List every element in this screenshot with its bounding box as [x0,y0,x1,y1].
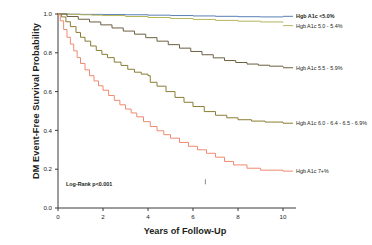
logrank-text: Log-Rank p<0.001 [66,181,112,187]
series-labels: Hgb A1c <5.0%Hgb A1c 5.0 - 5.4%Hgb A1c 5… [283,13,367,174]
series-label: Hgb A1c 5.0 - 5.4% [296,23,343,29]
curve-hgb-a1c-6-0-6-4-6-5-6-9 [58,14,283,123]
plot-canvas: 0.00.20.40.60.81.00246810 Hgb A1c <5.0%H… [0,0,372,245]
curve-hgb-a1c-5-5-5-9 [58,14,283,67]
curve-hgb-a1c-7 [58,14,283,171]
y-tick-label: 1.0 [43,10,52,17]
series-label: Hgb A1c 5.5 - 5.9% [296,65,343,71]
x-tick-label: 6 [191,213,195,220]
y-tick-label: 0.8 [43,49,52,56]
y-tick-label: 0.4 [43,127,52,134]
series-label: Hgb A1c 7+% [296,168,329,174]
x-tick-label: 2 [101,213,105,220]
x-axis-title: Years of Follow-Up [60,226,310,236]
x-tick-label: 0 [56,213,60,220]
axes: 0.00.20.40.60.81.00246810 [43,10,296,220]
x-tick-label: 4 [146,213,150,220]
survival-curves [58,14,283,171]
x-tick-label: 10 [280,213,287,220]
y-axis-title: DM Event-Free Survival Probability [31,11,41,191]
series-label: Hgb A1c <5.0% [296,13,335,19]
series-label: Hgb A1c 6.0 - 6.4 - 6.5 - 6.9% [296,120,367,126]
x-tick-label: 8 [236,213,240,220]
y-tick-label: 0.0 [43,204,52,211]
logrank-annotation: Log-Rank p<0.001 [66,181,112,187]
y-tick-label: 0.6 [43,88,52,95]
survival-chart: 0.00.20.40.60.81.00246810 Hgb A1c <5.0%H… [0,0,372,245]
y-tick-label: 0.2 [43,165,52,172]
